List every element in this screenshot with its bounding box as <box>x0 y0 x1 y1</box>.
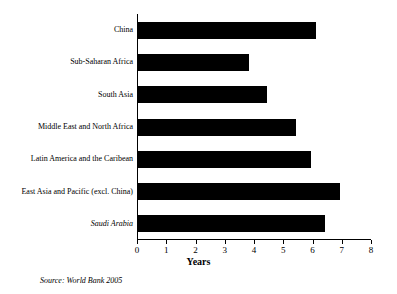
category-label: East Asia and Pacific (excl. China) <box>21 187 133 196</box>
tick-mark <box>196 240 197 244</box>
chart-container: ChinaSub-Saharan AfricaSouth AsiaMiddle … <box>0 0 397 294</box>
x-tick-label: 1 <box>158 245 174 255</box>
x-tick-label: 7 <box>334 245 350 255</box>
tick-mark <box>283 240 284 244</box>
category-label: South Asia <box>98 90 133 99</box>
tick-mark <box>166 240 167 244</box>
tick-mark <box>225 240 226 244</box>
bar <box>138 86 267 103</box>
x-tick-label: 6 <box>305 245 321 255</box>
category-label: China <box>114 25 133 34</box>
x-tick-label: 5 <box>275 245 291 255</box>
bar <box>138 151 311 168</box>
category-label: Sub-Saharan Africa <box>70 57 133 66</box>
tick-mark <box>371 240 372 244</box>
x-tick-label: 4 <box>246 245 262 255</box>
x-tick-label: 0 <box>129 245 145 255</box>
source-note: Source: World Bank 2005 <box>40 276 122 285</box>
bar <box>138 183 340 200</box>
x-tick-label: 3 <box>217 245 233 255</box>
x-tick-label: 2 <box>188 245 204 255</box>
x-axis-title: Years <box>0 256 397 267</box>
tick-mark <box>313 240 314 244</box>
bar <box>138 215 325 232</box>
category-label: Latin America and the Caribean <box>31 154 133 163</box>
category-label: Middle East and North Africa <box>38 122 133 131</box>
bar <box>138 119 296 136</box>
tick-mark <box>342 240 343 244</box>
x-tick-label: 8 <box>363 245 379 255</box>
bar <box>138 54 249 71</box>
bar <box>138 22 316 39</box>
tick-mark <box>254 240 255 244</box>
tick-mark <box>137 240 138 244</box>
category-label: Saudi Arabia <box>91 219 133 228</box>
